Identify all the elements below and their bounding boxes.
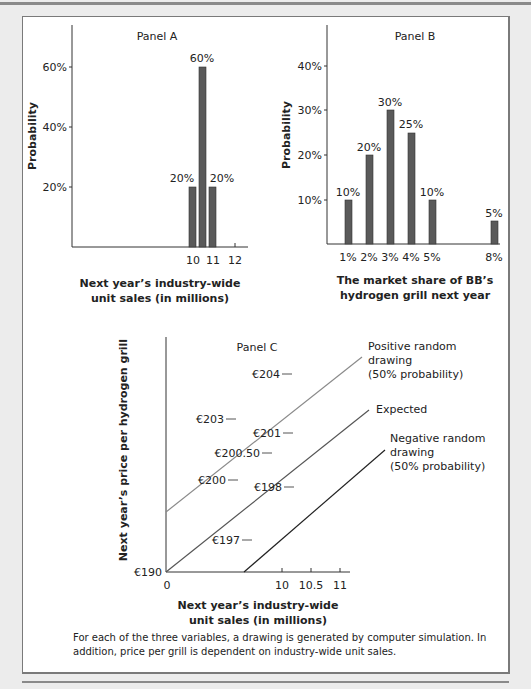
panel-b-xtick: 2% — [360, 251, 377, 264]
panel-b-bar — [429, 200, 436, 244]
panel-b-xtick: 1% — [339, 251, 356, 264]
positive-legend-line2: drawing — [368, 354, 412, 367]
panel-a-xtick: 11 — [206, 254, 220, 267]
panel-a-xlabel-line1: Next year’s industry-wide — [80, 277, 241, 290]
panel-a-ytick: 40% — [43, 121, 67, 134]
panel-a-ytick: 20% — [43, 181, 67, 194]
expected-point-label: €200.50 — [215, 447, 261, 460]
panel-b-xlabel-line2: hydrogen grill next year — [340, 289, 491, 302]
positive-point-label: €203 — [196, 413, 224, 426]
negative-legend-line2: drawing — [390, 446, 434, 459]
negative-legend-line3: (50% probability) — [390, 460, 485, 473]
panel-c-xlabel-line2: unit sales (in millions) — [189, 614, 327, 627]
panel-a-title: Panel A — [137, 30, 178, 43]
panel-a-xtick: 12 — [228, 254, 242, 267]
negative-legend-line1: Negative random — [390, 432, 486, 445]
panel-b-xtick: 8% — [485, 251, 502, 264]
panel-a: Panel A 60% 40% 20% Probability 20% 60% … — [26, 25, 248, 305]
panel-b-bar-label: 30% — [378, 96, 402, 109]
panel-b-bar — [366, 155, 373, 244]
panel-b-ytick: 10% — [298, 194, 322, 207]
panel-c-ylabel: Next year’s price per hydrogen grill — [117, 339, 130, 561]
panel-b-xtick: 3% — [381, 251, 398, 264]
panel-b-ylabel: Probability — [280, 101, 293, 169]
panel-c-xlabel-line1: Next year’s industry-wide — [178, 599, 339, 612]
expected-point-label: €200 — [198, 474, 226, 487]
panel-a-xtick: 10 — [186, 254, 200, 267]
panel-c-origin-y: €190 — [134, 566, 162, 579]
panel-b-bar-label: 10% — [336, 186, 360, 199]
panel-b-bar-label: 5% — [485, 207, 502, 220]
panel-a-bar-label: 60% — [190, 52, 214, 65]
panel-a-bar-label: 20% — [210, 172, 234, 185]
panel-b-bar — [408, 133, 415, 244]
panel-b-bar-label: 20% — [357, 141, 381, 154]
panel-a-bar — [199, 67, 206, 247]
panel-c-title: Panel C — [237, 341, 278, 354]
panel-b-bar — [387, 110, 394, 244]
panel-b-bar — [345, 200, 352, 244]
positive-legend-line1: Positive random — [368, 340, 457, 353]
panel-b-xlabel-line1: The market share of BB’s — [337, 274, 494, 287]
panel-a-ylabel: Probability — [26, 102, 39, 170]
negative-drawing-line — [244, 450, 385, 572]
panel-b: Panel B 40% 30% 20% 10% Probability 10% … — [280, 25, 503, 302]
panel-b-ytick: 30% — [298, 104, 322, 117]
panel-b-xtick: 5% — [423, 251, 440, 264]
panel-c-origin-x: 0 — [164, 579, 171, 592]
figure-svg: Panel A 60% 40% 20% Probability 20% 60% … — [0, 0, 531, 689]
negative-point-label: €197 — [212, 534, 240, 547]
panel-b-bar-label: 10% — [420, 186, 444, 199]
panel-b-ytick: 40% — [298, 60, 322, 73]
panel-a-ytick: 60% — [43, 61, 67, 74]
panel-c-xtick: 10.5 — [299, 579, 324, 592]
figure-caption: For each of the three variables, a drawi… — [73, 631, 503, 659]
panel-a-bar — [209, 187, 216, 247]
panel-c-xtick: 10 — [275, 579, 289, 592]
expected-point-label: €201 — [253, 427, 281, 440]
panel-c: Panel C Next year’s price per hydrogen g… — [117, 337, 486, 627]
panel-b-title: Panel B — [395, 30, 436, 43]
panel-b-ytick: 20% — [298, 149, 322, 162]
panel-b-xtick: 4% — [402, 251, 419, 264]
negative-point-label: €198 — [254, 481, 282, 494]
expected-legend: Expected — [376, 403, 427, 416]
panel-c-xtick: 11 — [333, 579, 347, 592]
panel-a-xlabel-line2: unit sales (in millions) — [91, 292, 229, 305]
panel-b-bar — [491, 221, 498, 244]
panel-b-bar-label: 25% — [399, 118, 423, 131]
panel-a-bar-label: 20% — [170, 172, 194, 185]
panel-a-bar — [189, 187, 196, 247]
positive-legend-line3: (50% probability) — [368, 368, 463, 381]
positive-point-label: €204 — [252, 368, 280, 381]
